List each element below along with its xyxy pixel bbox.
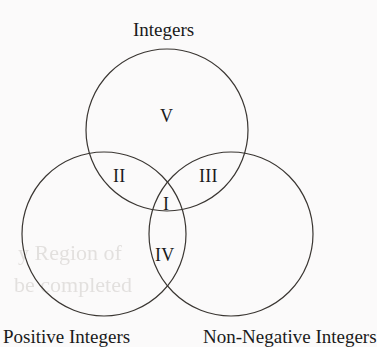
region-label-iv: IV: [155, 246, 174, 264]
region-label-v: V: [160, 107, 173, 125]
set-label-non-negative-integers: Non-Negative Integers: [203, 327, 377, 346]
circle-positive-integers: [22, 152, 186, 316]
region-label-ii: II: [113, 167, 125, 185]
circle-non-negative-integers: [149, 152, 313, 316]
circle-integers: [86, 49, 248, 211]
region-label-i: I: [163, 195, 169, 213]
region-label-iii: III: [199, 167, 218, 185]
set-label-positive-integers: Positive Integers: [3, 327, 130, 346]
set-label-integers: Integers: [133, 20, 194, 39]
